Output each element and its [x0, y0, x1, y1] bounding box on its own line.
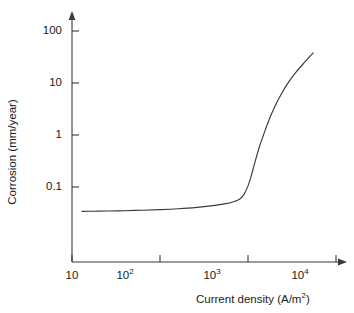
- corrosion-current-density-chart: 100 10 1 0.1 10 102 103 104 Corrosion (m…: [0, 0, 354, 313]
- x-tick-10-mantissa: 10: [66, 269, 79, 281]
- y-tick-label-0.1: 0.1: [28, 181, 62, 193]
- y-axis-title: Corrosion (mm/year): [7, 99, 19, 204]
- y-tick-label-100: 100: [28, 25, 62, 37]
- y-axis-title-wrapper: Corrosion (mm/year): [4, 62, 22, 242]
- x-tick-label-10000: 104: [280, 270, 320, 282]
- x-tick-1000-exponent: 3: [216, 267, 220, 276]
- x-tick-100-exponent: 2: [129, 267, 133, 276]
- x-tick-100-mantissa: 10: [116, 269, 129, 281]
- axis-lines: [69, 11, 347, 265]
- y-axis-tick-marks: [72, 31, 79, 187]
- x-axis-title: Current density (A/m2): [196, 294, 310, 306]
- x-tick-10000-exponent: 4: [304, 267, 308, 276]
- chart-plot-area: [0, 0, 354, 313]
- y-tick-label-10: 10: [28, 77, 62, 89]
- y-axis-up-arrow-icon: [69, 11, 76, 20]
- y-tick-label-1: 1: [28, 129, 62, 141]
- x-tick-1000-mantissa: 10: [203, 269, 216, 281]
- x-tick-label-100: 102: [105, 270, 145, 282]
- x-axis-title-close-paren: ): [306, 293, 310, 305]
- x-tick-label-1000: 103: [192, 270, 232, 282]
- x-axis-title-text: Current density (A/m: [196, 293, 301, 305]
- x-axis-tick-marks: [72, 255, 336, 262]
- x-tick-label-10: 10: [52, 270, 92, 282]
- corrosion-rate-curve: [82, 53, 313, 212]
- x-axis-right-arrow-icon: [338, 259, 347, 266]
- x-tick-10000-mantissa: 10: [291, 269, 304, 281]
